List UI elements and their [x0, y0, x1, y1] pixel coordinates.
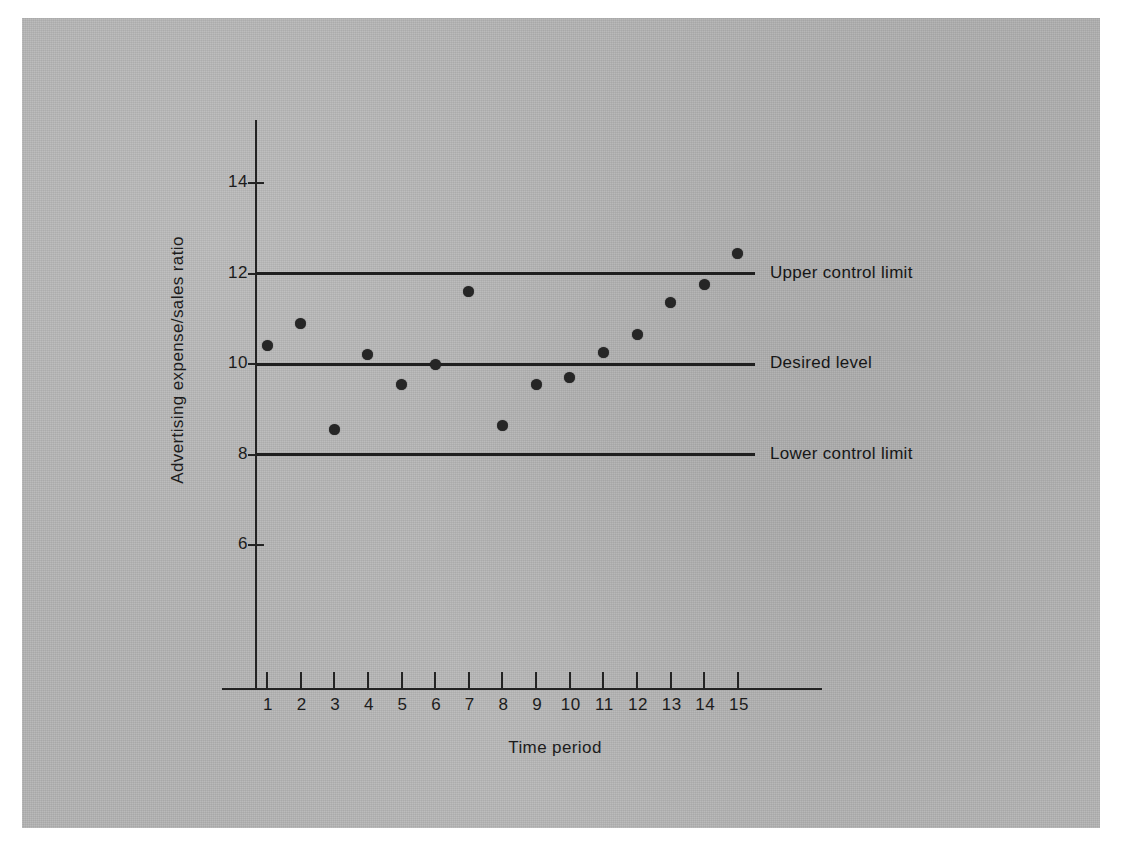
y-tick-label: 10: [196, 353, 248, 373]
x-tick-label: 1: [253, 695, 283, 715]
data-point: [329, 424, 340, 435]
y-tick-label: 6: [196, 534, 248, 554]
y-tick-label-text: 10: [208, 353, 248, 373]
x-tick-label: 13: [657, 695, 687, 715]
x-tick-mark: [434, 672, 436, 688]
y-tick-label: 8: [196, 444, 248, 464]
y-tick-label: 12: [196, 263, 248, 283]
x-tick-label: 12: [623, 695, 653, 715]
y-axis-line: [255, 120, 257, 690]
x-axis-title: Time period: [255, 738, 855, 758]
x-tick-label: 4: [354, 695, 384, 715]
x-tick-label: 2: [287, 695, 317, 715]
y-tick-mark: [248, 544, 264, 546]
x-tick-mark: [401, 672, 403, 688]
x-tick-mark: [703, 672, 705, 688]
x-tick-mark: [300, 672, 302, 688]
x-tick-mark: [266, 672, 268, 688]
y-tick-label-text: 12: [208, 263, 248, 283]
data-point: [598, 347, 609, 358]
y-tick-label: 14: [196, 172, 248, 192]
x-tick-label: 6: [421, 695, 451, 715]
y-tick-label-text: 14: [208, 172, 248, 192]
data-point: [295, 318, 306, 329]
x-tick-mark: [636, 672, 638, 688]
x-tick-label: 9: [522, 695, 552, 715]
y-tick-mark: [248, 182, 264, 184]
x-tick-mark: [569, 672, 571, 688]
data-point: [396, 379, 407, 390]
reference-line: [256, 453, 755, 456]
reference-line-label: Desired level: [770, 353, 872, 373]
reference-line-label: Lower control limit: [770, 444, 913, 464]
data-point: [262, 340, 273, 351]
x-tick-mark: [602, 672, 604, 688]
x-tick-label: 5: [388, 695, 418, 715]
x-tick-label: 8: [488, 695, 518, 715]
data-point: [497, 420, 508, 431]
x-tick-label: 10: [556, 695, 586, 715]
data-point: [632, 329, 643, 340]
x-tick-mark: [535, 672, 537, 688]
x-tick-label: 3: [320, 695, 350, 715]
x-tick-mark: [333, 672, 335, 688]
data-point: [531, 379, 542, 390]
y-tick-label-text: 8: [208, 444, 248, 464]
x-tick-label: 14: [690, 695, 720, 715]
reference-line-label: Upper control limit: [770, 263, 913, 283]
x-tick-mark: [670, 672, 672, 688]
x-tick-label: 7: [455, 695, 485, 715]
reference-line: [256, 272, 755, 275]
data-point: [430, 359, 441, 370]
x-tick-mark: [367, 672, 369, 688]
y-tick-label-text: 6: [208, 534, 248, 554]
x-tick-mark: [468, 672, 470, 688]
y-axis-title: Advertising expense/sales ratio: [168, 236, 188, 484]
x-tick-label: 15: [724, 695, 754, 715]
x-tick-mark: [737, 672, 739, 688]
reference-line: [256, 363, 755, 366]
x-axis-line: [222, 688, 822, 690]
x-tick-label: 11: [589, 695, 619, 715]
x-tick-mark: [501, 672, 503, 688]
figure-canvas: 68101214 123456789101112131415 Upper con…: [0, 0, 1126, 866]
